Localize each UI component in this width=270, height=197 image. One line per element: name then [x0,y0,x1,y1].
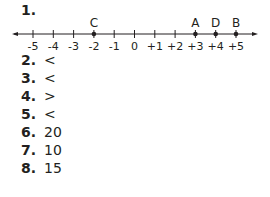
answer-row-5: 5. < [21,105,62,123]
tick-label: -2 [88,40,99,53]
point-label-a: A [191,16,200,30]
point-marker-c [92,32,97,37]
point-marker-b [234,32,239,37]
question-number: 4. [21,87,44,105]
question-number: 3. [21,69,44,87]
left-arrow-icon [12,32,18,36]
point-label-d: D [211,16,220,30]
question-number: 8. [21,159,44,177]
point-marker-a [193,32,198,37]
tick-label: 0 [131,40,138,53]
answer-row-8: 8. 15 [21,159,62,177]
answer-row-4: 4. > [21,87,62,105]
answer-value: 10 [44,141,62,159]
answer-value: > [44,87,56,105]
question-number: 5. [21,105,44,123]
point-group: CADB [90,16,240,36]
tick-label: +4 [208,40,224,53]
tick-label: +5 [228,40,244,53]
question-number: 6. [21,123,44,141]
answer-value: < [44,51,56,69]
question-number: 2. [21,51,44,69]
answer-row-2: 2. < [21,51,62,69]
point-marker-d [213,32,218,37]
answer-row-6: 6. 20 [21,123,62,141]
answer-value: < [44,105,56,123]
question-number: 7. [21,141,44,159]
answer-row-7: 7. 10 [21,141,62,159]
tick-label: +1 [147,40,163,53]
answer-row-3: 3. < [21,69,62,87]
tick-label: +2 [167,40,183,53]
answer-value: 15 [44,159,62,177]
tick-label: -3 [68,40,79,53]
point-label-c: C [90,16,98,30]
tick-label: -1 [109,40,120,53]
tick-group: -5-4-3-2-10+1+2+3+4+5 [28,30,245,53]
right-arrow-icon [252,32,258,36]
answer-value: 20 [44,123,62,141]
point-label-b: B [232,16,240,30]
tick-label: +3 [187,40,203,53]
answer-list: 2. < 3. < 4. > 5. < 6. 20 7. 10 8. 15 [21,51,62,177]
answer-value: < [44,69,56,87]
